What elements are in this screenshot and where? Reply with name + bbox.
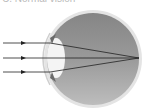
arrow-icon [21,41,26,74]
eye-diagram [0,0,144,111]
